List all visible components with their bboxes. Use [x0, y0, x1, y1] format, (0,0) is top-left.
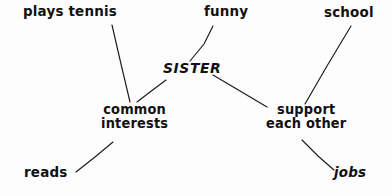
node-sister-label: SISTER	[163, 60, 221, 76]
node-reads[interactable]: reads	[24, 165, 67, 179]
node-plays-tennis[interactable]: plays tennis	[23, 4, 117, 18]
node-sister[interactable]: SISTER	[163, 61, 221, 76]
node-reads-label: reads	[24, 164, 67, 180]
node-school[interactable]: school	[324, 5, 374, 19]
node-support-each-other[interactable]: support each other	[266, 103, 346, 131]
edge-school-support	[305, 26, 351, 104]
edge-sister-support	[213, 75, 267, 107]
edge-sister-common	[137, 80, 166, 102]
edge-plays-tennis-common	[112, 25, 130, 102]
node-jobs[interactable]: jobs	[334, 165, 366, 179]
concept-map-canvas: plays tennis funny school SISTER common …	[0, 0, 392, 196]
node-support-each-other-label-line2: each other	[266, 117, 346, 131]
node-common-interests-label-line2: interests	[101, 117, 168, 131]
node-funny[interactable]: funny	[204, 4, 248, 18]
node-school-label: school	[324, 4, 374, 20]
edge-support-jobs	[302, 140, 334, 170]
node-funny-label: funny	[204, 3, 248, 19]
edge-sister-funny	[190, 26, 213, 61]
edge-reads-common	[76, 142, 113, 172]
node-plays-tennis-label: plays tennis	[23, 3, 117, 19]
node-jobs-label: jobs	[334, 164, 366, 180]
node-common-interests[interactable]: common interests	[101, 103, 168, 131]
